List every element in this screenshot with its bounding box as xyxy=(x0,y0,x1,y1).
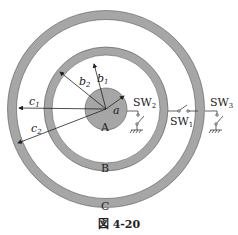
label-c2: c2 xyxy=(31,122,42,136)
label-sw3: SW3 xyxy=(210,96,233,110)
label-conductor-c: C xyxy=(101,200,109,213)
label-b2: b2 xyxy=(79,75,91,89)
label-c1: c1 xyxy=(29,95,40,109)
figure-caption: 図 4-20 xyxy=(0,215,238,231)
switch-sw1 xyxy=(168,105,198,112)
concentric-spheres-diagram: a b1 b2 c1 c2 A B C SW2 SW1 SW3 xyxy=(0,0,238,235)
label-a: a xyxy=(113,104,120,117)
switch-sw3 xyxy=(205,111,223,133)
label-conductor-a: A xyxy=(100,121,110,134)
label-sw1: SW1 xyxy=(170,115,193,129)
label-sw2: SW2 xyxy=(133,96,156,110)
label-b1: b1 xyxy=(97,72,109,86)
label-conductor-b: B xyxy=(101,162,109,175)
switch-sw2 xyxy=(127,111,144,133)
